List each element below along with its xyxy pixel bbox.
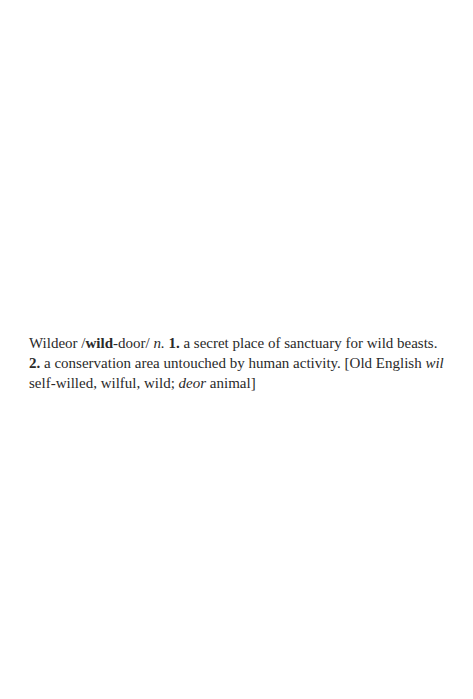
sense-1-text: a secret place of sanctuary for wild bea… [180,335,438,351]
etymology-word-1: wil [425,355,443,371]
etymology-text-1: self-willed, wilful, wild; [29,375,179,391]
etymology-word-2: deor [179,375,207,391]
sense-1-number: 1. [168,335,179,351]
sense-2-number: 2. [29,355,40,371]
pronunciation-stressed: wild [85,335,113,351]
etymology-text-2: animal] [206,375,256,391]
part-of-speech: n. [153,335,164,351]
headword: Wildeor [29,335,78,351]
dictionary-definition: Wildeor /wild-door/ n. 1. a secret place… [29,333,459,393]
pronunciation-rest: -door/ [113,335,153,351]
sense-2-text: a conservation area untouched by human a… [40,355,425,371]
